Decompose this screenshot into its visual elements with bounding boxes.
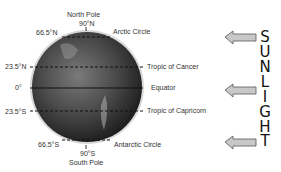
tropic-of-capricorn-label: Tropic of Capricorn xyxy=(147,107,206,115)
equator-label: Equator xyxy=(151,84,176,92)
sunlight-arrow-middle xyxy=(225,84,256,97)
arctic-circle-label: Arctic Circle xyxy=(113,28,150,36)
south-pole-degrees: 90°S xyxy=(80,150,95,158)
sunlight-letter-t: T xyxy=(258,134,272,149)
antarctic-circle-label: Antarctic Circle xyxy=(114,141,161,149)
latitude-66-5n-label: 66.5°N xyxy=(36,29,57,37)
latitude-23-5s-label: 23.5°S xyxy=(5,108,26,116)
latitude-23-5n-label: 23.5°N xyxy=(5,63,26,71)
north-pole-degrees: 90°N xyxy=(79,20,95,28)
latitude-0-label: 0° xyxy=(15,84,22,92)
tropic-of-cancer-label: Tropic of Cancer xyxy=(147,63,198,71)
south-pole-label: South Pole xyxy=(69,159,103,167)
north-pole-label: North Pole xyxy=(67,11,100,19)
latitude-66-5s-label: 66.5°S xyxy=(38,141,59,149)
earth-globe xyxy=(30,30,144,144)
sunlight-arrow-bottom xyxy=(225,136,256,149)
sunlight-arrow-top xyxy=(225,31,256,44)
